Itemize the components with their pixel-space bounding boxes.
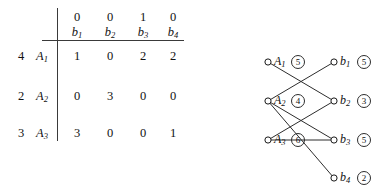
matrix-cell-A2-b3: 0 bbox=[126, 89, 160, 103]
column-weight-1: 0 bbox=[93, 10, 127, 24]
column-header-b4-sub: 4 bbox=[174, 30, 178, 40]
matrix-cell-A3-b2: 0 bbox=[93, 126, 127, 140]
row-header-A1: A1 bbox=[31, 49, 53, 66]
column-header-b2: b2 bbox=[93, 25, 127, 42]
graph-node-badge-b4: 2 bbox=[357, 171, 371, 185]
graph-node-badge-b3: 5 bbox=[357, 133, 371, 147]
graph-node-label-b1: b1 bbox=[340, 55, 350, 70]
row-weight-A3: 3 bbox=[14, 126, 28, 140]
column-header-b2-sub: 2 bbox=[111, 30, 115, 40]
row-header-A3: A3 bbox=[31, 126, 53, 143]
graph-node-label-b1-sub: 1 bbox=[346, 59, 350, 69]
graph-node-b4[interactable] bbox=[331, 175, 337, 181]
graph-node-label-b4-sub: 4 bbox=[346, 175, 350, 185]
assignment-matrix: 0 0 1 0 b1 b2 b3 b4 4 A1 1 0 2 2 2 A2 0 … bbox=[0, 0, 190, 189]
row-header-A1-sub: 1 bbox=[44, 54, 48, 64]
matrix-cell-A1-b4: 2 bbox=[156, 49, 190, 63]
matrix-cell-A3-b1: 3 bbox=[60, 126, 94, 140]
column-weight-2: 1 bbox=[126, 10, 160, 24]
graph-node-label-A1-sub: 1 bbox=[281, 59, 285, 69]
graph-node-A2[interactable] bbox=[265, 98, 271, 104]
column-header-b3-sub: 3 bbox=[144, 30, 148, 40]
graph-node-label-A3: A3 bbox=[274, 133, 286, 148]
graph-node-A1[interactable] bbox=[265, 59, 271, 65]
matrix-cell-A2-b2: 3 bbox=[93, 89, 127, 103]
graph-node-badge-b2: 3 bbox=[357, 94, 371, 108]
figure-root: 0 0 1 0 b1 b2 b3 b4 4 A1 1 0 2 2 2 A2 0 … bbox=[0, 0, 374, 189]
graph-node-b2[interactable] bbox=[331, 98, 337, 104]
row-weight-A1: 4 bbox=[14, 49, 28, 63]
edge-layer bbox=[268, 62, 334, 178]
column-header-b4: b4 bbox=[156, 25, 190, 42]
graph-node-label-A2: A2 bbox=[274, 94, 286, 109]
matrix-cell-A3-b3: 0 bbox=[126, 126, 160, 140]
column-weight-3: 0 bbox=[156, 10, 190, 24]
row-header-A1-base: A bbox=[36, 49, 44, 63]
graph-node-label-b4: b4 bbox=[340, 171, 350, 186]
graph-node-badge-A3: 6 bbox=[291, 133, 305, 147]
row-header-A3-sub: 3 bbox=[44, 131, 48, 141]
matrix-cell-A3-b4: 1 bbox=[156, 126, 190, 140]
graph-node-label-A2-sub: 2 bbox=[281, 98, 285, 108]
graph-node-badge-A1: 5 bbox=[291, 55, 305, 69]
graph-node-label-b2-sub: 2 bbox=[346, 98, 350, 108]
graph-node-label-b3: b3 bbox=[340, 133, 350, 148]
column-header-b1: b1 bbox=[60, 25, 94, 42]
graph-node-A3[interactable] bbox=[265, 137, 271, 143]
graph-node-b3[interactable] bbox=[331, 137, 337, 143]
row-header-A2: A2 bbox=[31, 89, 53, 106]
graph-node-label-A3-sub: 3 bbox=[281, 137, 285, 147]
row-weight-A2: 2 bbox=[14, 89, 28, 103]
matrix-row-label-rule bbox=[57, 8, 58, 141]
column-header-b3: b3 bbox=[126, 25, 160, 42]
graph-node-label-b3-sub: 3 bbox=[346, 137, 350, 147]
matrix-cell-A1-b2: 0 bbox=[93, 49, 127, 63]
graph-node-b1[interactable] bbox=[331, 59, 337, 65]
column-weight-0: 0 bbox=[60, 10, 94, 24]
graph-node-badge-b1: 5 bbox=[357, 55, 371, 69]
matrix-cell-A1-b1: 1 bbox=[60, 49, 94, 63]
bipartite-graph: A15A24A36b15b23b35b42 bbox=[190, 0, 374, 189]
row-header-A2-sub: 2 bbox=[44, 94, 48, 104]
row-header-A3-base: A bbox=[36, 126, 44, 140]
matrix-cell-A1-b3: 2 bbox=[126, 49, 160, 63]
graph-node-badge-A2: 4 bbox=[291, 94, 305, 108]
column-header-b1-sub: 1 bbox=[78, 30, 82, 40]
matrix-cell-A2-b1: 0 bbox=[60, 89, 94, 103]
graph-node-label-b2: b2 bbox=[340, 94, 350, 109]
graph-node-label-A1: A1 bbox=[274, 55, 286, 70]
row-header-A2-base: A bbox=[36, 89, 44, 103]
matrix-cell-A2-b4: 0 bbox=[156, 89, 190, 103]
